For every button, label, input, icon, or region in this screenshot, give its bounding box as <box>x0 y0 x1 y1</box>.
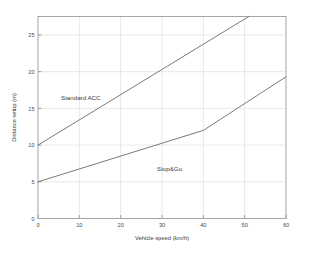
x-tick-marks <box>38 215 286 219</box>
series-label-stop-and-go: Stop&Go <box>157 165 183 172</box>
x-tick-label-1: 10 <box>76 222 82 228</box>
chart-figure: 0 10 20 30 40 50 60 5 10 15 20 25 0 Vehi… <box>0 0 313 254</box>
y-origin-label: 0 <box>31 216 34 222</box>
y-tick-labels: 5 10 15 20 25 <box>28 32 34 185</box>
grid-vertical <box>79 17 244 219</box>
x-tick-label-4: 40 <box>200 222 206 228</box>
series-line-standard-acc <box>38 17 249 146</box>
x-axis-title: Vehicle speed (km/h) <box>135 235 189 241</box>
y-tick-label-0: 5 <box>31 179 34 185</box>
y-tick-label-2: 15 <box>28 106 34 112</box>
x-tick-label-5: 50 <box>242 222 248 228</box>
y-tick-label-1: 10 <box>28 142 34 148</box>
chart-canvas: 0 10 20 30 40 50 60 5 10 15 20 25 0 Vehi… <box>0 0 313 254</box>
y-axis-title: Distance setup (m) <box>11 93 17 142</box>
y-tick-marks <box>38 35 42 182</box>
y-tick-label-4: 25 <box>28 32 34 38</box>
y-tick-label-3: 20 <box>28 69 34 75</box>
series-label-standard-acc: Standard ACC <box>61 94 101 101</box>
x-tick-label-3: 30 <box>159 222 165 228</box>
x-tick-label-2: 20 <box>118 222 124 228</box>
x-tick-label-0: 0 <box>36 222 39 228</box>
x-tick-labels: 0 10 20 30 40 50 60 <box>36 222 289 228</box>
x-tick-label-6: 60 <box>283 222 289 228</box>
